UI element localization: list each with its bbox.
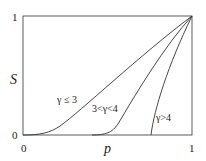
y-tick-1: 1 [12,11,18,23]
x-axis-label: p [103,141,111,156]
curve-label-gamma-le-3: γ ≤ 3 [56,94,77,105]
curve-label-gamma-3-to-4: 3<γ<4 [92,103,118,114]
curve-label-gamma-gt-4: γ>4 [155,112,171,123]
percolation-chart: 1 S 0 0 p 1 γ ≤ 3 3<γ<4 γ>4 [0,0,206,161]
y-tick-0: 0 [12,129,18,141]
x-tick-0: 0 [21,142,27,154]
y-axis-label: S [10,72,17,87]
curve-gamma-3-to-4 [92,16,192,135]
x-tick-1: 1 [189,142,195,154]
